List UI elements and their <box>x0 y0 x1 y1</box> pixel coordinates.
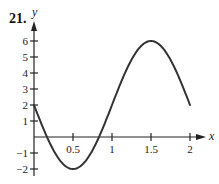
x-tick-label: 1.5 <box>144 143 158 155</box>
y-tick-label: 1 <box>23 115 29 127</box>
problem-number: 21. <box>9 11 27 26</box>
x-tick-label: 1 <box>109 143 115 155</box>
x-tick-label: 0.5 <box>66 143 80 155</box>
axes <box>31 21 206 176</box>
y-tick-label: −2 <box>16 163 28 175</box>
y-tick-label: 5 <box>23 51 29 63</box>
y-tick-label: 6 <box>23 35 29 47</box>
x-axis-arrow-icon <box>196 134 206 140</box>
function-graph: 21. 0.511.52−2−1123456 x y <box>0 0 219 184</box>
x-tick-label: 2 <box>187 143 193 155</box>
y-axis-arrow-icon <box>31 21 37 31</box>
y-tick-label: 4 <box>23 67 29 79</box>
tick-labels: 0.511.52−2−1123456 <box>16 35 192 175</box>
y-axis-label: y <box>31 5 38 19</box>
y-tick-label: −1 <box>16 147 28 159</box>
x-axis-label: x <box>208 129 215 143</box>
y-tick-label: 2 <box>23 99 29 111</box>
y-tick-label: 3 <box>23 83 29 95</box>
